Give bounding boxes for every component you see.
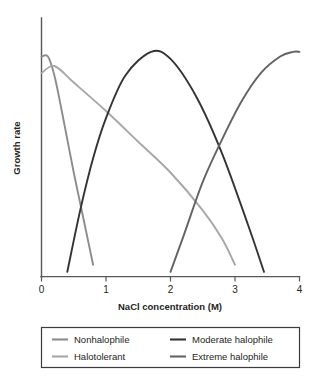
- x-tick-label-1: 1: [103, 284, 109, 295]
- x-tick-label-3: 3: [232, 284, 238, 295]
- series-line-halotolerant: [42, 66, 236, 265]
- y-axis-title: Growth rate: [11, 121, 22, 174]
- legend-label-moderate-halophile: Moderate halophile: [192, 334, 273, 345]
- legend-label-extreme-halophile: Extreme halophile: [192, 351, 268, 362]
- series-line-nonhalophile: [42, 55, 94, 265]
- x-tick-label-2: 2: [168, 284, 174, 295]
- legend-label-halotolerant: Halotolerant: [74, 351, 126, 362]
- legend: Nonhalophile Halotolerant Moderate halop…: [42, 328, 300, 368]
- legend-label-nonhalophile: Nonhalophile: [74, 334, 129, 345]
- x-tick-label-0: 0: [39, 284, 45, 295]
- figure-container: 0 1 2 3 4 NaCl concentration (M) Growth …: [0, 0, 321, 385]
- growth-rate-vs-nacl-chart: 0 1 2 3 4 NaCl concentration (M) Growth …: [0, 0, 321, 385]
- series-line-moderate-halophile: [67, 51, 264, 272]
- x-tick-label-4: 4: [297, 284, 303, 295]
- x-axis-title: NaCl concentration (M): [118, 301, 222, 312]
- x-axis-ticks: [42, 277, 300, 282]
- series-group: [42, 51, 300, 272]
